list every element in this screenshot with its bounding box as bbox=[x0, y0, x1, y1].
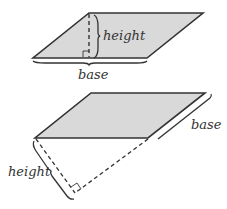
bottom-base-extension-dashed-line bbox=[75, 139, 148, 193]
bottom-right-angle-marker bbox=[71, 183, 81, 189]
parallelogram-diagram: height base height base bbox=[0, 0, 227, 209]
bottom-base-brace-end bbox=[210, 94, 211, 98]
top-base-brace bbox=[33, 61, 147, 65]
bottom-parallelogram bbox=[35, 93, 205, 138]
top-base-label: base bbox=[78, 67, 109, 82]
bottom-base-label: base bbox=[191, 117, 222, 132]
bottom-height-label: height bbox=[8, 164, 51, 179]
top-height-label: height bbox=[103, 28, 146, 43]
figure-bottom: height base bbox=[8, 93, 222, 199]
figure-top: height base bbox=[33, 13, 203, 82]
